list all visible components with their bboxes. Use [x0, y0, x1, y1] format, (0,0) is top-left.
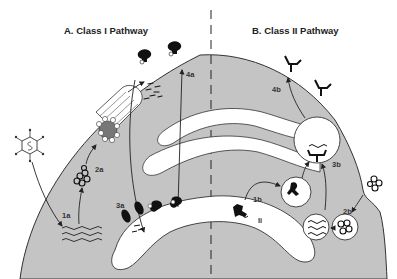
- label-4a: 4a: [186, 70, 194, 79]
- title-class-ii: B. Class II Pathway: [252, 25, 339, 36]
- diagram-canvas: [0, 0, 397, 279]
- label-4b: 4b: [272, 85, 281, 94]
- label-2b: 2b: [343, 207, 352, 216]
- virus-icon: [15, 129, 44, 162]
- title-class-i: A. Class I Pathway: [64, 25, 148, 36]
- mhc-pathway-diagram: A. Class I Pathway B. Class II Pathway 1…: [0, 0, 397, 279]
- label-3b: 3b: [332, 160, 341, 169]
- label-2a: 2a: [95, 165, 103, 174]
- label-1a: 1a: [62, 211, 70, 220]
- label-1b: 1b: [253, 195, 262, 204]
- vesicle-antigen: [332, 214, 358, 240]
- external-antigen: [368, 176, 383, 191]
- mhc-class-i-surface: [138, 41, 181, 64]
- label-3a: 3a: [116, 201, 124, 210]
- label-ii: Ii: [258, 216, 262, 225]
